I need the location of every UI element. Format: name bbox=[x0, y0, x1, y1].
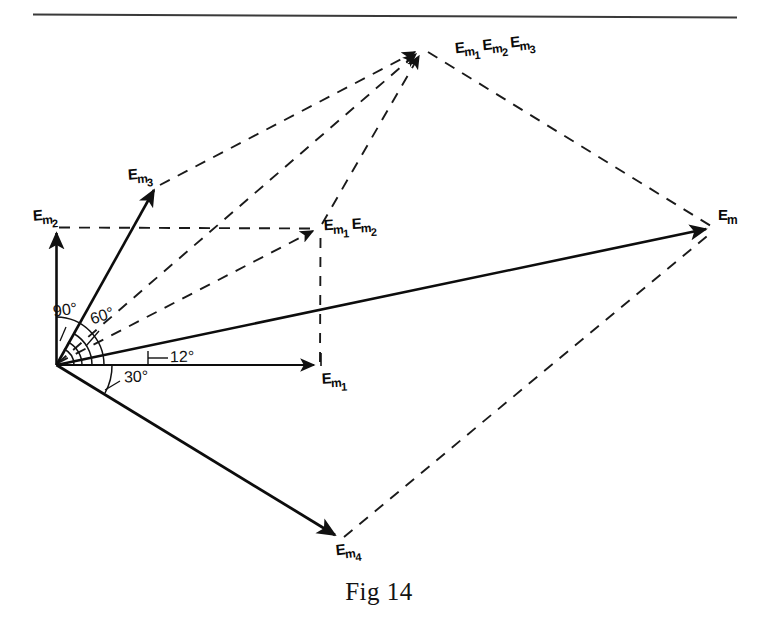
dashed-em1em2-to-resultant bbox=[322, 56, 419, 224]
header-rule bbox=[33, 15, 737, 18]
label-em2: Em2 bbox=[32, 206, 58, 231]
dashed-em1-to-em1em2 bbox=[320, 236, 321, 362]
label-em: Em bbox=[718, 207, 738, 226]
label-em4-index: 4 bbox=[355, 551, 362, 564]
vector-em3 bbox=[57, 190, 155, 365]
figure-caption: Fig 14 bbox=[0, 578, 758, 606]
label-em-m: m bbox=[727, 213, 738, 227]
leader-30 bbox=[105, 381, 120, 390]
label-em2-index: 2 bbox=[52, 217, 59, 229]
label-em1-em2-em3-i3: 3 bbox=[529, 43, 536, 56]
dashed-em2-to-em1em2 bbox=[59, 228, 318, 229]
angle-label-90: 90° bbox=[52, 300, 78, 319]
angle-label-30: 30° bbox=[124, 369, 149, 386]
angle-arcs bbox=[57, 317, 169, 393]
angle-label-12: 12° bbox=[170, 349, 194, 365]
label-em1-index: 1 bbox=[341, 380, 348, 392]
dashed-em4-to-em bbox=[344, 232, 712, 537]
figure-container: Em1Em2Em3 Em3 Em2 Em1Em2 Em Em1 Em4 90° … bbox=[0, 0, 758, 630]
label-em1: Em1 bbox=[321, 369, 347, 393]
label-em3: Em3 bbox=[127, 165, 153, 190]
label-em1-em2-i1: 1 bbox=[343, 227, 350, 239]
dashed-construction-lines bbox=[58, 52, 712, 537]
label-em1-em2-em3-i2: 2 bbox=[501, 46, 508, 59]
label-em1-em2: Em1Em2 bbox=[323, 215, 377, 241]
label-em1-em2-i2: 2 bbox=[370, 226, 377, 238]
vector-em bbox=[57, 229, 707, 365]
leader-90 bbox=[60, 327, 66, 341]
solid-vectors bbox=[57, 190, 707, 535]
label-em4: Em4 bbox=[335, 540, 362, 565]
dashed-origin-to-em1em2 bbox=[58, 231, 313, 363]
dashed-resultant-to-em bbox=[428, 52, 711, 226]
label-em3-index: 3 bbox=[147, 176, 154, 188]
label-em1-em2-em3-i1: 1 bbox=[474, 49, 481, 62]
vector-em4 bbox=[57, 365, 336, 535]
